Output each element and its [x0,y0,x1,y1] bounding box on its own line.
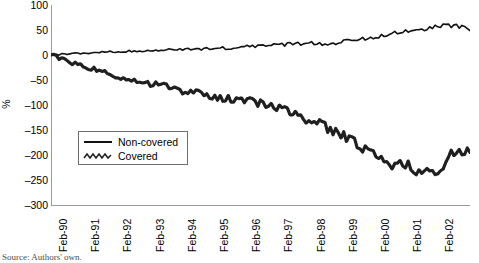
series-canvas [51,5,470,205]
series-line-non-covered [51,24,470,55]
legend-label-non-covered: Non-covered [118,137,178,148]
legend-label-covered: Covered [118,151,158,162]
legend-entry-covered: Covered [83,149,187,163]
legend-swatch-zigzag-line-icon [83,150,113,162]
x-tick-label: Feb-98 [316,219,327,252]
x-tick-label: Feb-90 [58,219,69,252]
legend-swatch-solid-line-icon [83,136,113,148]
x-tick-label: Feb-91 [90,219,101,252]
chart-figure: % 100500–50–100–150–200–250–300 Feb-90Fe… [0,0,479,263]
x-tick-label: Feb-95 [219,219,230,252]
x-tick-label: Feb-00 [380,219,391,252]
chart-legend: Non-covered Covered [78,131,188,165]
x-tick-label: Feb-96 [251,219,262,252]
x-tick-label: Feb-01 [412,219,423,252]
source-caption: Source: Authors' own. [2,252,82,262]
legend-entry-non-covered: Non-covered [83,135,187,149]
x-tick-label: Feb-02 [444,219,455,252]
x-tick-label: Feb-93 [155,219,166,252]
x-tick-label: Feb-92 [122,219,133,252]
x-tick-label: Feb-99 [348,219,359,252]
plot-area [51,5,470,205]
x-tick-label: Feb-97 [283,219,294,252]
x-tick-label: Feb-94 [187,219,198,252]
